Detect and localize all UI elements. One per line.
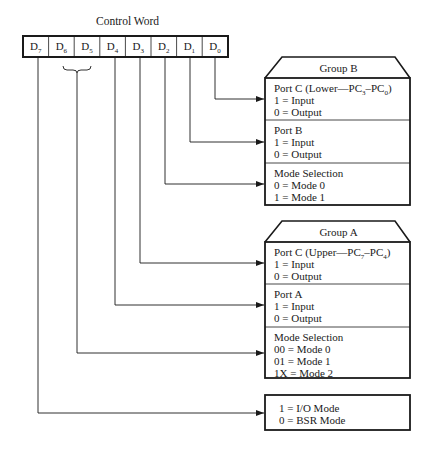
section-line: 1 = Input [274, 94, 314, 106]
group-a-title: Group A [282, 226, 395, 238]
bit-d1: D1 [177, 36, 203, 57]
connector-d1 [190, 57, 264, 142]
connector-d6-d5 [77, 73, 264, 353]
connector-d3 [140, 57, 264, 263]
bit-d7: D7 [23, 36, 49, 57]
section-heading: Mode Selection [274, 167, 343, 179]
section-line: 01 = Mode 1 [274, 355, 331, 367]
section-line: 0 = BSR Mode [279, 414, 345, 426]
section-line: 1 = Input [274, 258, 314, 270]
bit-d4: D4 [100, 36, 126, 57]
group-b-title: Group B [282, 62, 395, 74]
bit-d6: D6 [49, 36, 75, 57]
section-line: 0 = Output [274, 270, 322, 282]
section-line: 1 = Input [274, 300, 314, 312]
connector-d2 [165, 57, 264, 184]
section-line: 1 = Mode 1 [274, 191, 325, 203]
bit-d0: D0 [202, 36, 228, 57]
connector-d7 [38, 57, 264, 413]
connector-d0 [215, 57, 264, 99]
diagram-title: Control Word [96, 15, 159, 27]
connector-d4 [115, 57, 264, 305]
section-heading: Mode Selection [274, 331, 343, 343]
section-line: 0 = Output [274, 312, 322, 324]
brace-d6-d5 [63, 66, 91, 73]
section-line: 00 = Mode 0 [274, 343, 331, 355]
section-line: 0 = Output [274, 106, 322, 118]
section-heading: Port A [274, 288, 302, 300]
bit-d3: D3 [125, 36, 151, 57]
section-line: 1 = Input [274, 136, 314, 148]
bit-d5: D5 [74, 36, 100, 57]
section-line: 1X = Mode 2 [274, 367, 333, 379]
section-line: 0 = Output [274, 148, 322, 160]
bit-d2: D2 [151, 36, 177, 57]
section-line: 1 = I/O Mode [279, 402, 339, 414]
section-heading: Port B [274, 124, 302, 136]
section-line: 0 = Mode 0 [274, 179, 325, 191]
